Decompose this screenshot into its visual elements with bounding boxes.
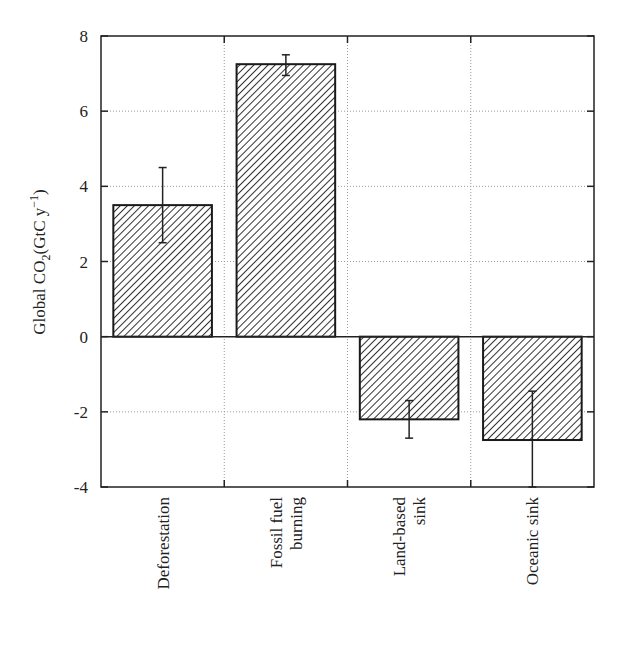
y-tick-label: 2 (80, 253, 89, 272)
y-tick-label: -4 (74, 478, 89, 497)
x-axis-labels: DeforestationFossil fuelburningLand-base… (154, 497, 543, 590)
svg-text:Deforestation: Deforestation (154, 497, 173, 590)
svg-text:Fossil fuel: Fossil fuel (267, 497, 286, 569)
bar-fossil-fuel-burning (237, 64, 336, 336)
svg-text:Land-based: Land-based (390, 497, 409, 577)
x-category-label: Land-basedsink (390, 497, 429, 577)
bar-chart: -4-202468 DeforestationFossil fuelburnin… (0, 0, 629, 646)
svg-text:burning: burning (287, 497, 306, 550)
y-tick-label: 8 (80, 27, 89, 46)
y-tick-label: 6 (80, 102, 89, 121)
y-axis-label: Global CO2(GtC y−1) (27, 189, 53, 334)
x-category-label: Fossil fuelburning (267, 497, 306, 569)
x-category-label: Deforestation (154, 497, 173, 590)
y-tick-label: 0 (80, 328, 89, 347)
y-tick-label: 4 (80, 177, 89, 196)
svg-text:sink: sink (410, 497, 429, 526)
y-tick-label: -2 (74, 403, 88, 422)
x-category-label: Oceanic sink (523, 497, 542, 586)
svg-text:Oceanic sink: Oceanic sink (523, 497, 542, 586)
